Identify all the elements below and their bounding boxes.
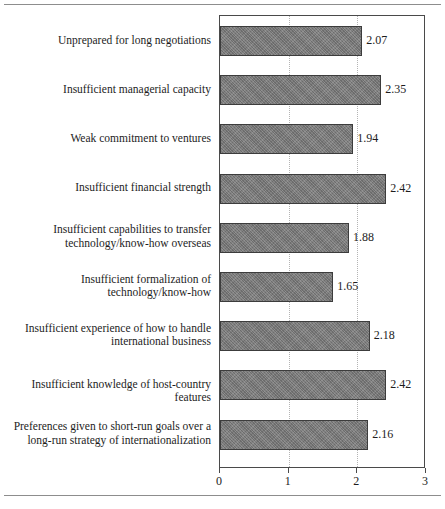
x-axis-tick — [219, 468, 220, 473]
category-label-line-1: Weak commitment to ventures — [70, 132, 211, 144]
category-label: Insufficient experience of how to handle… — [8, 322, 211, 349]
bar — [220, 124, 353, 154]
category-label-line-2: technology/know-how overseas — [8, 237, 211, 251]
x-axis-tick-label: 1 — [285, 474, 291, 488]
category-label: Preferences given to short-run goals ove… — [8, 420, 211, 447]
category-label-line-1: Insufficient knowledge of host-country f… — [31, 378, 211, 404]
bar — [220, 174, 386, 204]
x-axis-tick-label: 3 — [422, 474, 428, 488]
bottom-divider-rule — [4, 495, 441, 496]
bar-value-label: 1.65 — [337, 279, 358, 293]
bar-value-label: 2.35 — [385, 82, 406, 96]
category-label-line-1: Preferences given to short-run goals ove… — [14, 420, 211, 432]
category-label-line-2: long-run strategy of internationalizatio… — [8, 434, 211, 448]
category-label-line-2: technology/know-how — [8, 286, 211, 300]
category-label-line-1: Unprepared for long negotiations — [58, 34, 211, 46]
category-label: Insufficient capabilities to transfertec… — [8, 223, 211, 250]
bar — [220, 75, 381, 105]
bar-value-label: 2.16 — [372, 427, 393, 441]
bar — [220, 370, 386, 400]
chart-figure: Unprepared for long negotiationsInsuffic… — [0, 0, 445, 509]
bar-value-label: 1.94 — [357, 131, 378, 145]
top-divider-rule — [4, 4, 441, 5]
bar — [220, 223, 349, 253]
bar-value-label: 2.07 — [366, 33, 387, 47]
category-label: Insufficient financial strength — [8, 181, 211, 195]
bar-value-label: 1.88 — [353, 230, 374, 244]
bar-value-label: 2.18 — [374, 328, 395, 342]
category-label: Insufficient formalization oftechnology/… — [8, 273, 211, 300]
category-label: Weak commitment to ventures — [8, 132, 211, 146]
bar — [220, 420, 368, 450]
x-axis-tick-label: 0 — [216, 474, 222, 488]
x-axis-tick — [425, 468, 426, 473]
x-axis-tick — [356, 468, 357, 473]
category-label-line-2: international business — [8, 335, 211, 349]
category-label: Unprepared for long negotiations — [8, 34, 211, 48]
bar-value-label: 2.42 — [390, 377, 411, 391]
bar-value-label: 2.42 — [390, 181, 411, 195]
category-label-line-1: Insufficient formalization of — [81, 273, 211, 285]
category-label-line-1: Insufficient experience of how to handle — [25, 322, 211, 334]
x-axis-tick-label: 2 — [353, 474, 359, 488]
bar — [220, 272, 333, 302]
x-axis-tick — [288, 468, 289, 473]
category-label-line-1: Insufficient capabilities to transfer — [53, 223, 211, 235]
category-label: Insufficient knowledge of host-country f… — [8, 378, 211, 405]
category-label: Insufficient managerial capacity — [8, 83, 211, 97]
bar — [220, 321, 370, 351]
category-label-line-1: Insufficient financial strength — [75, 181, 211, 193]
bar — [220, 26, 362, 56]
category-label-line-1: Insufficient managerial capacity — [63, 83, 211, 95]
